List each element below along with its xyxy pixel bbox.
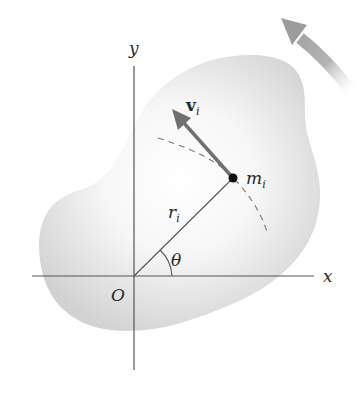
angle-theta-label: θ <box>171 252 181 269</box>
mass-subscript: i <box>262 178 266 191</box>
velocity-subscript: i <box>196 105 200 118</box>
rigid-body-shape <box>39 55 320 331</box>
rotating-rigid-body-diagram: y x O θ ri vi mi <box>0 0 364 393</box>
radius-label: ri <box>168 204 180 224</box>
mass-symbol: m <box>246 168 262 188</box>
velocity-symbol: v <box>186 95 196 115</box>
velocity-label: vi <box>186 97 199 117</box>
origin-label: O <box>111 287 125 304</box>
radius-subscript: i <box>176 212 180 225</box>
mass-point <box>229 174 238 183</box>
diagram-canvas <box>0 0 364 393</box>
mass-label: mi <box>246 170 266 190</box>
radius-symbol: r <box>168 202 176 222</box>
y-axis-label: y <box>129 40 139 57</box>
x-axis-label: x <box>323 268 333 285</box>
